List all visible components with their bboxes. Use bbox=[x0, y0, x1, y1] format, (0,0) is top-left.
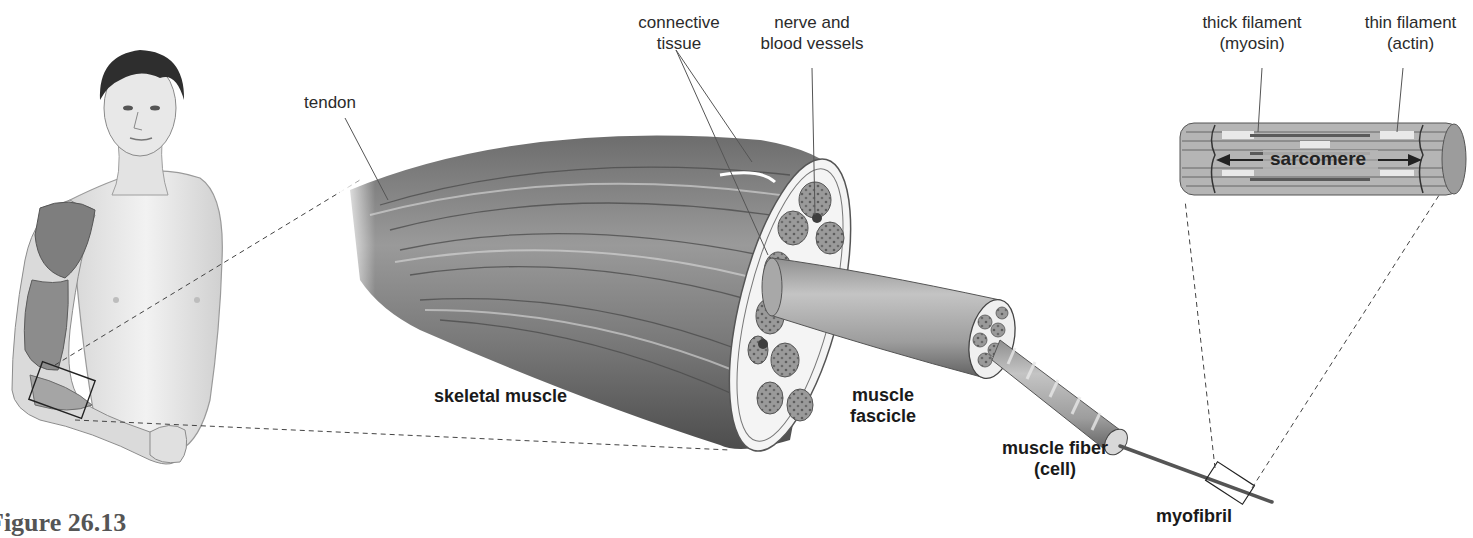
human-figure-illustration bbox=[12, 50, 222, 464]
label-tendon: tendon bbox=[304, 92, 356, 113]
label-muscle-fiber: muscle fiber (cell) bbox=[990, 438, 1120, 480]
label-thin-filament: thin filament (actin) bbox=[1348, 12, 1473, 54]
label-line: tissue bbox=[624, 33, 734, 54]
label-myofibril: myofibril bbox=[1156, 506, 1232, 527]
label-line: nerve and bbox=[752, 12, 872, 33]
label-thick-filament: thick filament (myosin) bbox=[1172, 12, 1332, 54]
leader-thin-filament bbox=[1397, 68, 1403, 132]
label-line: (myosin) bbox=[1172, 33, 1332, 54]
label-line: blood vessels bbox=[752, 33, 872, 54]
label-line: connective bbox=[624, 12, 734, 33]
leader-thick-filament bbox=[1258, 68, 1262, 132]
zoom-line-myofibril-right bbox=[1252, 178, 1450, 488]
label-line: muscle bbox=[848, 385, 918, 406]
figure-caption: Figure 26.13 bbox=[0, 508, 126, 538]
label-muscle-fascicle: muscle fascicle bbox=[848, 385, 918, 427]
zoom-line-myofibril-left bbox=[1185, 200, 1215, 468]
label-connective-tissue: connective tissue bbox=[624, 12, 734, 54]
label-line: muscle fiber bbox=[990, 438, 1120, 459]
label-sarcomere: sarcomere bbox=[1270, 148, 1366, 170]
label-text: tendon bbox=[304, 93, 356, 112]
label-skeletal-muscle: skeletal muscle bbox=[434, 386, 567, 407]
label-line: thin filament bbox=[1348, 12, 1473, 33]
label-line: (actin) bbox=[1348, 33, 1473, 54]
label-line: thick filament bbox=[1172, 12, 1332, 33]
label-line: (cell) bbox=[990, 459, 1120, 480]
label-nerve-and-blood-vessels: nerve and blood vessels bbox=[752, 12, 872, 54]
label-line: fascicle bbox=[848, 406, 918, 427]
